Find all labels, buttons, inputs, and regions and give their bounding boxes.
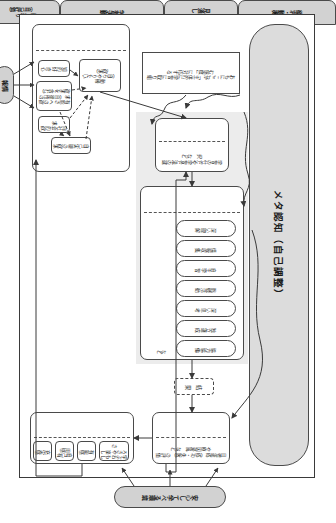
diagram-canvas: メタ認知（自己調整） おもにここが「主体的に学習に取り組む態度」に対応する 欲求…	[0, 0, 336, 523]
connector-layer	[0, 0, 336, 523]
diagram-root: メタ認知（自己調整） おもにここが「主体的に学習に取り組む態度」に対応する 欲求…	[0, 0, 336, 523]
